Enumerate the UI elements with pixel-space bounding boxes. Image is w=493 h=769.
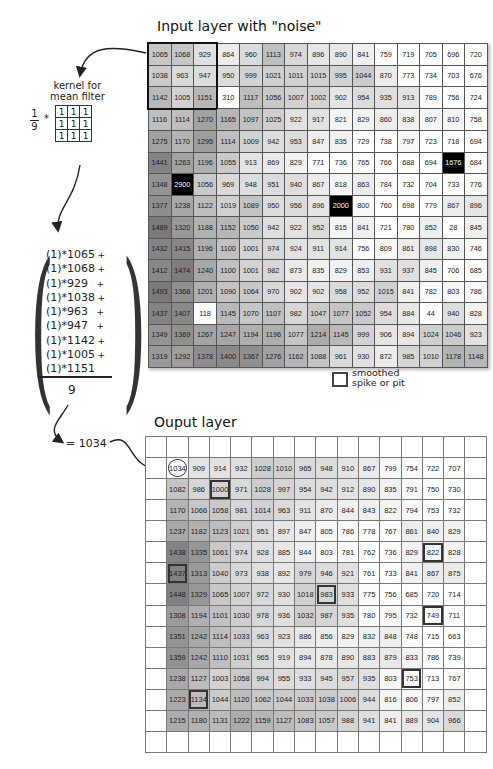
output-cell: 942 — [316, 479, 337, 500]
padding-cell — [252, 731, 273, 752]
input-cell: 771 — [307, 152, 330, 174]
input-cell: 1162 — [285, 346, 308, 368]
formula-term: (1)*929+ — [46, 277, 105, 291]
input-cell: 1056 — [194, 174, 217, 196]
output-cell: 1028 — [252, 479, 273, 500]
padding-cell — [146, 626, 167, 647]
padding-cell — [146, 458, 167, 479]
input-row: 1412147412401100100198287383582985393193… — [148, 260, 487, 282]
input-cell: 829 — [285, 152, 308, 174]
input-cell: 1368 — [171, 281, 194, 303]
input-cell: 1055 — [217, 152, 240, 174]
padding-cell — [146, 437, 167, 458]
output-cell: 914 — [209, 458, 230, 479]
output-cell: 1101 — [209, 605, 230, 626]
formula-term: (1)*963+ — [46, 305, 105, 319]
output-cell: 843 — [358, 500, 379, 521]
output-cell: 1238 — [167, 668, 188, 689]
input-cell: 756 — [352, 238, 375, 260]
input-cell: 867 — [307, 174, 330, 196]
output-cell: 711 — [444, 605, 465, 626]
output-cell: 978 — [252, 605, 273, 626]
input-cell: 1367 — [240, 346, 263, 368]
input-cell: 906 — [375, 324, 398, 346]
output-cell: 780 — [358, 605, 379, 626]
input-cell: 870 — [375, 65, 398, 87]
input-cell: 746 — [465, 238, 488, 260]
input-cell: 1378 — [194, 346, 217, 368]
kernel-fraction: 1 9 — [30, 108, 39, 133]
input-cell: 828 — [465, 303, 488, 325]
input-cell: 845 — [465, 217, 488, 239]
output-cell: 799 — [380, 458, 401, 479]
input-cell: 723 — [420, 131, 443, 153]
formula-result: = 1034 — [66, 437, 107, 450]
padding-cell — [146, 668, 167, 689]
input-cell: 935 — [375, 87, 398, 109]
input-cell: 911 — [307, 238, 330, 260]
output-cell: 1335 — [188, 542, 209, 563]
output-cell: 957 — [337, 668, 358, 689]
padding-cell — [188, 437, 209, 458]
output-cell: 732 — [401, 605, 422, 626]
input-cell: 1007 — [285, 87, 308, 109]
input-cell: 1038 — [148, 65, 171, 87]
output-cell: 870 — [316, 500, 337, 521]
input-row: 1489132011881152105094292295281584172178… — [148, 217, 487, 239]
output-cell: 1159 — [252, 710, 273, 731]
input-cell: 1275 — [148, 131, 171, 153]
input-cell: 898 — [420, 238, 443, 260]
output-cell: 1127 — [273, 710, 294, 731]
input-cell: 1377 — [148, 195, 171, 217]
output-cell: 1044 — [209, 689, 230, 710]
output-cell: 897 — [273, 521, 294, 542]
padding-cell — [167, 437, 188, 458]
input-cell: 1170 — [171, 131, 194, 153]
output-cell: 928 — [252, 542, 273, 563]
input-cell: 947 — [194, 65, 217, 87]
input-cell: 789 — [420, 87, 443, 109]
kernel-cell: 1 — [80, 130, 92, 142]
padding-cell — [146, 710, 167, 731]
input-cell: 1292 — [171, 346, 194, 368]
input-cell: 766 — [375, 152, 398, 174]
input-cell: 1201 — [194, 281, 217, 303]
output-cell: 841 — [401, 563, 422, 584]
output-cell: 1114 — [209, 626, 230, 647]
input-row: 1441126311961055913869829771736765766688… — [148, 152, 487, 174]
output-cell: 944 — [358, 689, 379, 710]
output-cell: 1007 — [231, 584, 252, 605]
output-cell: 1223 — [167, 689, 188, 710]
output-cell: 1329 — [188, 584, 209, 605]
input-cell: 734 — [420, 65, 443, 87]
padding-cell — [465, 563, 486, 584]
padding-cell — [401, 731, 422, 752]
input-cell: 1056 — [262, 87, 285, 109]
input-cell: 867 — [442, 195, 465, 217]
input-cell: 1412 — [148, 260, 171, 282]
input-cell: 1015 — [375, 281, 398, 303]
input-cell: 694 — [465, 131, 488, 153]
input-cell: 1247 — [217, 324, 240, 346]
input-cell: 942 — [262, 131, 285, 153]
input-cell: 736 — [330, 152, 353, 174]
output-cell: 685 — [401, 584, 422, 605]
output-cell: 1237 — [167, 521, 188, 542]
output-cell: 829 — [401, 542, 422, 563]
output-cell: 805 — [316, 521, 337, 542]
input-cell: 970 — [262, 281, 285, 303]
input-cell: 960 — [240, 43, 263, 65]
input-cell: 954 — [352, 87, 375, 109]
input-cell: 720 — [465, 43, 488, 65]
input-cell: 773 — [397, 65, 420, 87]
input-cell: 1077 — [285, 324, 308, 346]
input-cell: 890 — [330, 43, 353, 65]
output-row: 1034909914932102810109659489108677997547… — [146, 458, 487, 479]
output-cell: 971 — [231, 479, 252, 500]
padding-cell — [465, 689, 486, 710]
input-cell: 1046 — [442, 324, 465, 346]
input-cell: 853 — [352, 260, 375, 282]
output-row: 1359124211101031965919894878890883879833… — [146, 647, 487, 668]
input-cell: 894 — [397, 324, 420, 346]
output-cell: 890 — [337, 647, 358, 668]
